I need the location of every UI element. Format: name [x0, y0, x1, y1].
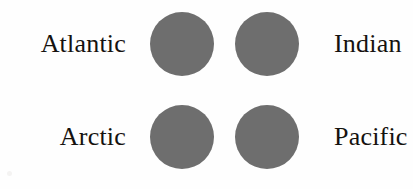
circle-atlantic [150, 12, 214, 76]
ocean-label-pacific: Pacific [309, 124, 413, 150]
ocean-label-atlantic: Atlantic [0, 31, 131, 57]
circle-cell-indian [224, 12, 309, 76]
circle-cell-arctic [139, 105, 224, 169]
ocean-row-bottom: Arctic Pacific [0, 95, 413, 179]
ocean-label-arctic: Arctic [0, 124, 131, 150]
oceans-diagram: Atlantic Indian Arctic Pacific [0, 0, 413, 189]
ocean-label-indian: Indian [309, 31, 413, 57]
circle-cell-atlantic [139, 12, 224, 76]
circle-cell-pacific [224, 105, 309, 169]
circle-pacific [235, 105, 299, 169]
circle-arctic [150, 105, 214, 169]
circle-indian [235, 12, 299, 76]
ocean-row-top: Atlantic Indian [0, 2, 413, 86]
corner-artifact [7, 171, 12, 176]
